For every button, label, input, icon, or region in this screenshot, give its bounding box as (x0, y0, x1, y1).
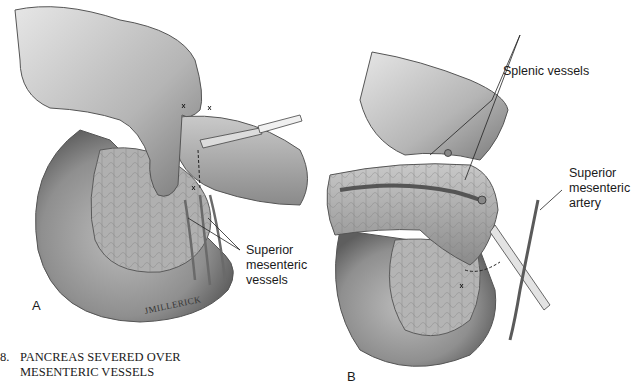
label-splenic-vessels: Splenic vessels (503, 64, 589, 79)
illustration-canvas (0, 0, 638, 390)
panel-b-letter: B (347, 369, 356, 384)
figure-caption: 8.PANCREAS SEVERED OVER MESENTERIC VESSE… (0, 350, 181, 380)
caption-line-1: PANCREAS SEVERED OVER (20, 350, 181, 364)
panel-b-illustration (327, 35, 562, 366)
label-superior-mesenteric-artery: Superior mesenteric artery (569, 166, 630, 211)
caption-line-2: MESENTERIC VESSELS (0, 365, 181, 380)
figure-number: 8. (0, 350, 20, 365)
label-superior-mesenteric-vessels: Superior mesenteric vessels (246, 243, 307, 288)
panel-a-letter: A (32, 298, 41, 313)
